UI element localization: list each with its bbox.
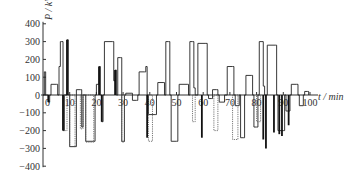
negative-power-block xyxy=(193,95,196,122)
y-tick-label: −100 xyxy=(19,107,40,118)
x-tick-label: 50 xyxy=(172,97,182,108)
y-tick-label: −300 xyxy=(19,143,40,154)
chart-canvas: 4003002001000−100−200−300−400 1020304050… xyxy=(0,0,361,184)
x-tick-label: 60 xyxy=(198,97,208,108)
y-tick-label: −400 xyxy=(19,161,40,172)
y-tick-label: 0 xyxy=(35,90,40,101)
x-tick-label: 70 xyxy=(225,97,235,108)
x-axis-title: t / min xyxy=(318,91,344,102)
x-tick-label: 30 xyxy=(118,97,128,108)
y-tick-label: −200 xyxy=(19,125,40,136)
y-tick-label: 200 xyxy=(25,54,40,65)
y-tick-label: 300 xyxy=(25,36,40,47)
y-axis-title: P / kW xyxy=(43,0,54,21)
power-step-chart: 4003002001000−100−200−300−400 1020304050… xyxy=(0,0,361,184)
negative-power-block xyxy=(214,95,218,131)
y-tick-label: 100 xyxy=(25,72,40,83)
plot-area xyxy=(43,40,309,149)
x-tick-label: 100 xyxy=(303,97,318,108)
y-tick-label: 400 xyxy=(25,18,40,29)
x-tick-label: 20 xyxy=(91,97,101,108)
